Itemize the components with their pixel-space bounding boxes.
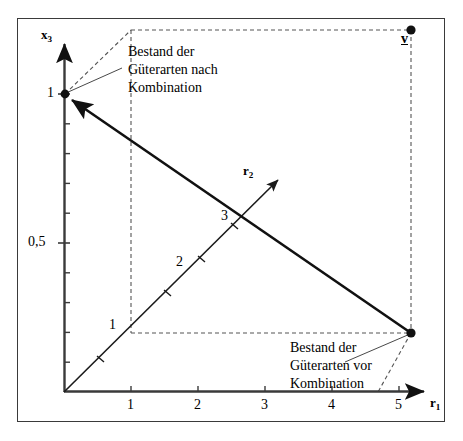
point-bestand-vor[interactable]	[406, 328, 415, 337]
y-tick-label-0-5: 0,5	[28, 235, 46, 249]
combination-vector-line	[72, 100, 411, 333]
x-tick-label-4: 4	[328, 398, 335, 412]
diagram-canvas	[0, 0, 463, 441]
r2-unit-label-3: 3	[221, 209, 228, 223]
r2-unit-marks	[97, 223, 238, 362]
y-axis-label: x3	[41, 28, 52, 41]
v-point-label: v	[401, 32, 408, 46]
bestand-nach-kombination-note: Bestand der Güterarten nach Kombination	[128, 43, 218, 98]
r2-unit-label-1: 1	[109, 318, 116, 332]
point-x3-unit[interactable]	[61, 90, 70, 99]
r2-ray-group	[64, 180, 278, 392]
x-tick-label-1: 1	[127, 398, 134, 412]
x-tick-label-2: 2	[194, 398, 201, 412]
data-points	[61, 25, 416, 337]
x-axis-label: r1	[430, 396, 440, 409]
bestand-vor-kombination-note: Bestand der Güterarten vor Kombination	[290, 339, 372, 394]
x-tick-label-3: 3	[261, 398, 268, 412]
y-tick-label-1: 1	[47, 86, 54, 100]
r2-ray-label: r2	[243, 164, 253, 177]
leader-dashed-lower	[378, 333, 411, 392]
diagonal-guide-to-corner	[65, 30, 131, 94]
leader-upper-note	[66, 68, 122, 93]
dashed-guides	[65, 30, 411, 392]
r2-ray-line	[64, 180, 278, 392]
x-tick-label-5: 5	[395, 398, 402, 412]
r2-unit-label-2: 2	[176, 255, 183, 269]
